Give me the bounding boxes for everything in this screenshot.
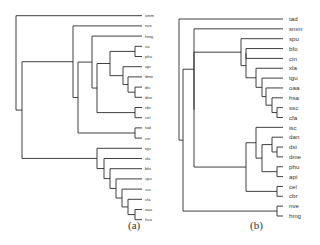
leaf-label-smm: smm: [289, 25, 302, 32]
leaf-label-api: api: [145, 64, 151, 69]
leaf-label-api: api: [289, 173, 297, 180]
leaf-label-dsi: dsi: [289, 143, 297, 150]
leaf-label-smm: smm: [145, 13, 155, 18]
leaf-label-oaa: oaa: [145, 207, 153, 212]
leaf-label-phu: phu: [289, 163, 300, 170]
leaf-label-tad: tad: [289, 15, 298, 22]
leaf-label-ssc: ssc: [145, 187, 151, 192]
dendrogram-canvas: smmnvehmgiscphuapidmedsidancbrceltadcint…: [0, 0, 320, 245]
leaf-label-tad: tad: [145, 125, 151, 130]
panel-b-caption: (b): [250, 219, 263, 231]
leaf-label-bfo: bfo: [145, 166, 151, 171]
leaf-label-isc: isc: [289, 124, 297, 131]
leaf-label-oaa: oaa: [289, 84, 300, 91]
leaf-label-tgu: tgu: [145, 146, 151, 151]
leaf-label-bfo: bfo: [289, 45, 298, 52]
leaf-label-dsi: dsi: [145, 85, 150, 90]
leaf-label-hsa: hsa: [145, 217, 152, 222]
leaf-label-dme: dme: [145, 74, 154, 79]
leaf-label-hsa: hsa: [289, 94, 300, 101]
leaf-label-isc: isc: [145, 44, 150, 49]
leaf-label-cfa: cfa: [145, 197, 151, 202]
leaf-label-hmg: hmg: [145, 34, 154, 39]
leaf-label-xla: xla: [289, 64, 297, 71]
leaf-label-dme: dme: [289, 153, 302, 160]
leaf-label-phu: phu: [145, 54, 153, 59]
leaf-label-hmg: hmg: [289, 212, 302, 219]
leaf-label-cbr: cbr: [145, 105, 151, 110]
leaf-label-dan: dan: [145, 95, 153, 100]
panel-a-caption: (a): [128, 219, 140, 231]
leaf-label-cbr: cbr: [289, 192, 298, 199]
leaf-label-spu: spu: [145, 176, 152, 181]
leaf-label-cfa: cfa: [289, 114, 298, 121]
leaf-label-cin: cin: [289, 55, 297, 62]
leaf-label-nve: nve: [145, 23, 152, 28]
leaf-label-nve: nve: [289, 202, 300, 209]
leaf-label-cel: cel: [145, 115, 150, 120]
leaf-label-dan: dan: [289, 133, 300, 140]
leaf-label-xla: xla: [145, 156, 151, 161]
leaf-label-ssc: ssc: [289, 104, 298, 111]
leaf-label-cel: cel: [289, 183, 297, 190]
leaf-label-spu: spu: [289, 35, 300, 42]
dendrogram-figure: smmnvehmgiscphuapidmedsidancbrceltadcint…: [0, 0, 320, 245]
leaf-label-tgu: tgu: [289, 74, 298, 81]
leaf-label-cin: cin: [145, 136, 151, 141]
